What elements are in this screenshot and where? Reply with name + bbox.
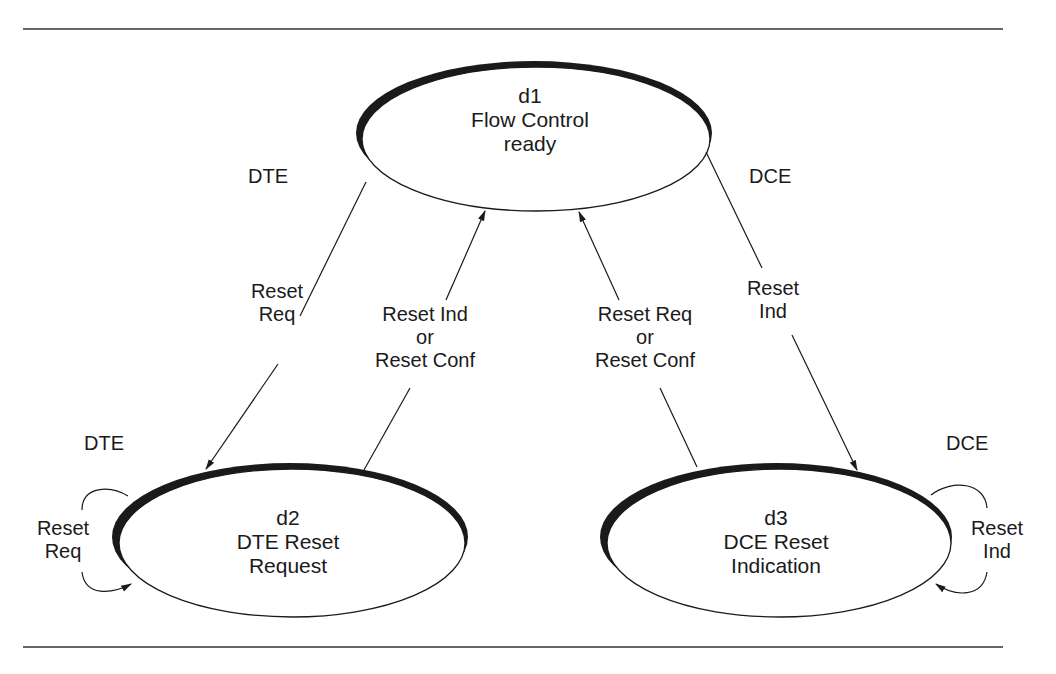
actor-dce-top: DCE (749, 165, 791, 188)
label-d3-to-d1: Reset Req or Reset Conf (580, 303, 710, 372)
state-d1-id: d1 (430, 84, 630, 108)
state-d3-subname: Indication (676, 554, 876, 578)
state-d1: d1 Flow Control ready (430, 84, 630, 156)
state-d3: d3 DCE Reset Indication (676, 506, 876, 578)
actor-dte-top: DTE (248, 165, 288, 188)
label-d2-to-d1: Reset Ind or Reset Conf (360, 303, 490, 372)
actor-dte-loop: DTE (84, 432, 124, 455)
actor-dce-loop: DCE (946, 432, 988, 455)
state-d1-name: Flow Control (430, 108, 630, 132)
state-d2-name: DTE Reset (188, 530, 388, 554)
state-d2-id: d2 (188, 506, 388, 530)
label-d1-to-d2: Reset Req (242, 280, 312, 326)
state-d1-subname: ready (430, 132, 630, 156)
label-d2-self-loop: Reset Req (28, 517, 98, 563)
state-d2-subname: Request (188, 554, 388, 578)
label-d1-to-d3: Reset Ind (738, 277, 808, 323)
state-d2: d2 DTE Reset Request (188, 506, 388, 578)
state-d3-id: d3 (676, 506, 876, 530)
state-d3-name: DCE Reset (676, 530, 876, 554)
label-d3-self-loop: Reset Ind (962, 517, 1032, 563)
